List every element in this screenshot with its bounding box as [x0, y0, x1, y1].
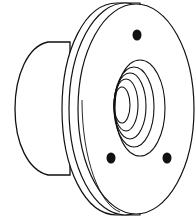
bolt-hole-bottom-left — [107, 153, 116, 164]
bolt-hole-top — [133, 30, 142, 41]
flange-drawing — [0, 0, 196, 220]
bolt-hole-bottom-right — [163, 153, 172, 164]
